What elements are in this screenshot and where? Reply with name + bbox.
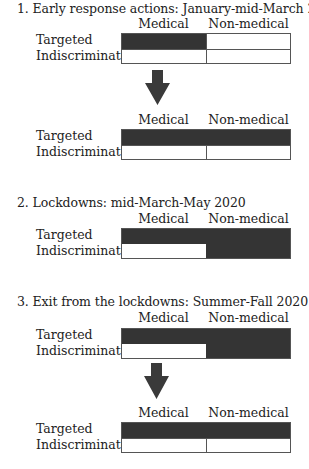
row-label-indiscriminate: Indiscriminate xyxy=(36,243,128,258)
phase-3-title: 3. Exit from the lockdowns: Summer-Fall … xyxy=(17,294,308,309)
cell-indiscriminate-medical xyxy=(122,344,206,359)
row-label-indiscriminate: Indiscriminate xyxy=(36,437,128,452)
phase-3-grid-after xyxy=(121,422,291,453)
row-label-targeted: Targeted xyxy=(36,227,93,242)
column-header-medical: Medical xyxy=(121,310,206,325)
cell-targeted-non-medical xyxy=(206,34,290,49)
column-header-medical: Medical xyxy=(121,211,206,226)
column-header-non-medical: Non-medical xyxy=(206,310,291,325)
phase-2-grid xyxy=(121,228,291,259)
cell-targeted-non-medical xyxy=(206,130,290,145)
down-arrow-icon xyxy=(145,70,171,106)
phase-1-grid-before xyxy=(121,33,291,64)
down-arrow-icon xyxy=(144,363,170,400)
cell-indiscriminate-medical xyxy=(122,244,206,259)
column-header-medical: Medical xyxy=(121,16,206,31)
cell-targeted-non-medical xyxy=(206,423,290,438)
cell-indiscriminate-medical xyxy=(122,49,206,64)
cell-indiscriminate-non-medical xyxy=(206,244,290,259)
column-header-medical: Medical xyxy=(121,112,206,127)
column-header-non-medical: Non-medical xyxy=(206,211,291,226)
cell-targeted-medical xyxy=(122,34,206,49)
column-header-non-medical: Non-medical xyxy=(206,112,291,127)
cell-targeted-medical xyxy=(122,423,206,438)
phase-2-title: 2. Lockdowns: mid-March-May 2020 xyxy=(17,195,246,210)
row-label-targeted: Targeted xyxy=(36,421,93,436)
row-label-indiscriminate: Indiscriminate xyxy=(36,343,128,358)
row-label-targeted: Targeted xyxy=(36,32,93,47)
cell-indiscriminate-non-medical xyxy=(206,145,290,160)
cell-indiscriminate-non-medical xyxy=(206,49,290,64)
phase-1-grid-after xyxy=(121,129,291,160)
cell-indiscriminate-medical xyxy=(122,438,206,453)
cell-indiscriminate-medical xyxy=(122,145,206,160)
row-label-indiscriminate: Indiscriminate xyxy=(36,144,128,159)
cell-indiscriminate-non-medical xyxy=(206,344,290,359)
column-header-non-medical: Non-medical xyxy=(206,16,291,31)
cell-indiscriminate-non-medical xyxy=(206,438,290,453)
cell-targeted-non-medical xyxy=(206,329,290,344)
phase-1-title: 1. Early response actions: January-mid-M… xyxy=(17,1,309,16)
row-label-indiscriminate: Indiscriminate xyxy=(36,48,128,63)
phase-3-grid-before xyxy=(121,328,291,359)
column-header-medical: Medical xyxy=(121,405,206,420)
row-label-targeted: Targeted xyxy=(36,327,93,342)
cell-targeted-medical xyxy=(122,130,206,145)
cell-targeted-medical xyxy=(122,329,206,344)
row-label-targeted: Targeted xyxy=(36,128,93,143)
column-header-non-medical: Non-medical xyxy=(206,405,291,420)
cell-targeted-medical xyxy=(122,229,206,244)
cell-targeted-non-medical xyxy=(206,229,290,244)
